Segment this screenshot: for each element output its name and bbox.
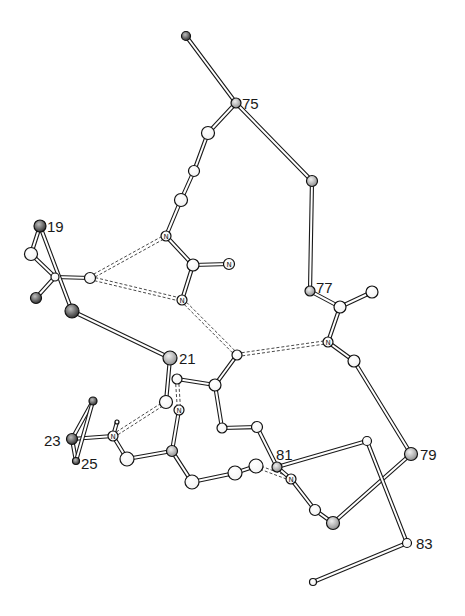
atom bbox=[31, 293, 42, 304]
covalent-bond-highlight bbox=[72, 311, 170, 358]
hydrogen-bond bbox=[89, 235, 165, 277]
atom-element-label: N bbox=[179, 297, 184, 305]
hydrogen-bond bbox=[183, 299, 238, 354]
covalent-bond-highlight bbox=[186, 36, 236, 103]
residue-number-label: 23 bbox=[44, 432, 61, 449]
covalent-bond-highlight bbox=[367, 441, 407, 543]
hydrogen-bond bbox=[237, 344, 328, 357]
atom bbox=[67, 434, 78, 445]
atom bbox=[405, 448, 418, 461]
atom-element-label: N bbox=[226, 261, 231, 269]
nitrogen-atom: N bbox=[224, 259, 235, 270]
atom bbox=[175, 194, 188, 207]
covalent-bond-highlight bbox=[313, 543, 407, 582]
atom bbox=[228, 466, 242, 480]
atom bbox=[167, 446, 178, 457]
atom bbox=[231, 98, 241, 108]
hydrogen-bond-layer bbox=[89, 235, 328, 481]
nitrogen-atom: N bbox=[177, 295, 187, 305]
atom bbox=[163, 351, 177, 365]
atom bbox=[51, 273, 59, 281]
nitrogen-atom: N bbox=[286, 474, 296, 484]
hydrogen-bond bbox=[237, 340, 328, 353]
atom bbox=[403, 539, 412, 548]
atom bbox=[73, 458, 80, 465]
residue-number-label: 81 bbox=[276, 446, 293, 463]
hydrogen-bond bbox=[112, 401, 165, 435]
hydrogen-bond bbox=[181, 301, 236, 356]
atom-element-label: N bbox=[163, 233, 168, 241]
residue-number-label: 19 bbox=[47, 218, 64, 235]
residue-number-label: 75 bbox=[242, 95, 259, 112]
atom bbox=[366, 286, 378, 298]
residue-number-label: 79 bbox=[420, 446, 437, 463]
covalent-bond-highlight bbox=[333, 454, 411, 523]
atom bbox=[232, 350, 242, 360]
atom-element-label: N bbox=[325, 339, 330, 347]
atom bbox=[85, 273, 96, 284]
nitrogen-atom: N bbox=[161, 231, 171, 241]
atom bbox=[182, 32, 191, 41]
atom bbox=[89, 397, 97, 405]
nitrogen-atom: N bbox=[108, 431, 118, 441]
atom bbox=[187, 259, 199, 271]
atom bbox=[249, 459, 263, 473]
covalent-bond-highlight bbox=[236, 103, 312, 181]
residue-number-label: 83 bbox=[416, 535, 433, 552]
atom bbox=[34, 220, 46, 232]
atom bbox=[348, 355, 360, 367]
residue-number-label: 25 bbox=[81, 455, 98, 472]
atom bbox=[217, 423, 227, 433]
atom bbox=[305, 286, 315, 296]
hydrogen-bond bbox=[114, 403, 167, 437]
atom bbox=[252, 422, 263, 433]
atom bbox=[65, 304, 79, 318]
atom bbox=[334, 301, 346, 313]
atom bbox=[363, 437, 372, 446]
atom bbox=[327, 517, 340, 530]
atom bbox=[209, 379, 221, 391]
covalent-bond-highlight bbox=[172, 410, 179, 451]
atom bbox=[25, 248, 38, 261]
atom bbox=[120, 452, 134, 466]
residue-number-label: 77 bbox=[316, 279, 333, 296]
atom bbox=[115, 420, 119, 424]
atom-element-label: N bbox=[110, 433, 115, 441]
atom bbox=[310, 579, 317, 586]
atom-element-label: N bbox=[176, 407, 181, 415]
atom bbox=[310, 505, 321, 516]
nitrogen-atom: N bbox=[174, 405, 184, 415]
hydrogen-bond bbox=[90, 276, 182, 298]
hydrogen-bond bbox=[91, 237, 167, 279]
atom bbox=[160, 396, 173, 409]
atom bbox=[272, 462, 282, 472]
atom-element-label: N bbox=[288, 476, 293, 484]
atom bbox=[189, 166, 200, 177]
covalent-bond-layer bbox=[31, 36, 411, 582]
atom bbox=[185, 475, 199, 489]
atom bbox=[307, 176, 318, 187]
molecular-structure-diagram: NNNNNNN 751977212325817983 bbox=[0, 0, 465, 616]
atom bbox=[202, 127, 215, 140]
hydrogen-bond bbox=[90, 280, 182, 302]
atom bbox=[172, 374, 182, 384]
residue-number-label: 21 bbox=[179, 350, 196, 367]
nitrogen-atom: N bbox=[323, 337, 333, 347]
